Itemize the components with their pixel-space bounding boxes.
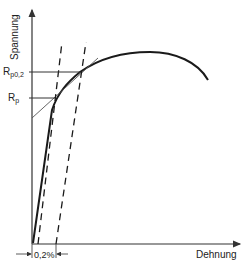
tangent-line: [32, 58, 98, 118]
offset-label: 0,2%: [34, 250, 55, 260]
rp-label: Rp: [8, 92, 19, 105]
stress-strain-diagram: Spannung Dehnung Rp0,2 Rp 0,2%: [0, 0, 248, 265]
stress-strain-curve: [33, 52, 208, 243]
x-axis-label: Dehnung: [196, 249, 237, 260]
y-axis-label: Spannung: [9, 14, 20, 60]
rp02-label: Rp0,2: [3, 66, 24, 79]
